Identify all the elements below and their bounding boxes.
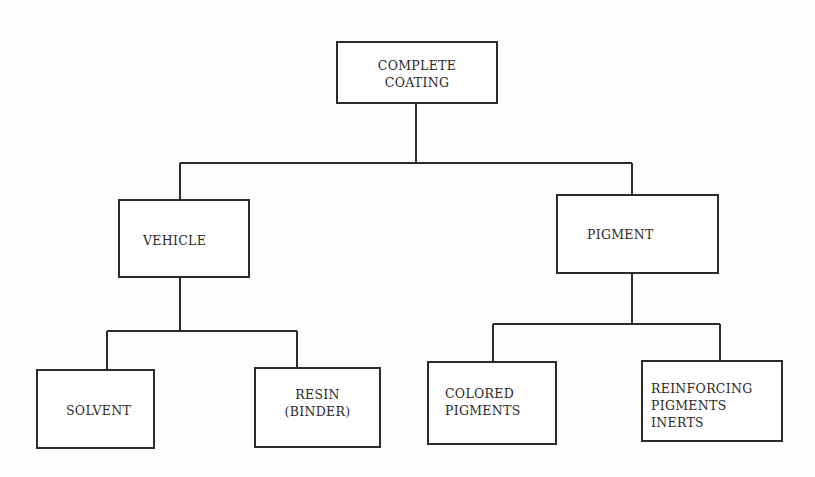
- node-label-pigment: PIGMENT: [587, 226, 654, 243]
- label-line: PIGMENTS: [445, 402, 521, 419]
- label-line: PIGMENT: [587, 226, 654, 243]
- node-label-reinforcing-pigments: REINFORCING PIGMENTS INERTS: [651, 380, 752, 431]
- label-line: INERTS: [651, 414, 752, 431]
- label-line: (BINDER): [255, 403, 380, 420]
- label-line: COLORED: [445, 385, 521, 402]
- node-label-resin: RESIN (BINDER): [255, 386, 380, 420]
- label-line: COMPLETE: [337, 57, 497, 74]
- label-line: PIGMENTS: [651, 397, 752, 414]
- label-line: RESIN: [255, 386, 380, 403]
- label-line: SOLVENT: [66, 402, 131, 419]
- node-label-vehicle: VEHICLE: [143, 232, 206, 249]
- coating-composition-diagram: COMPLETE COATING VEHICLE PIGMENT SOLVENT…: [0, 0, 815, 477]
- label-line: VEHICLE: [143, 232, 206, 249]
- node-label-solvent: SOLVENT: [66, 402, 131, 419]
- node-label-complete-coating: COMPLETE COATING: [337, 57, 497, 91]
- label-line: REINFORCING: [651, 380, 752, 397]
- label-line: COATING: [337, 74, 497, 91]
- node-label-colored-pigments: COLORED PIGMENTS: [445, 385, 521, 419]
